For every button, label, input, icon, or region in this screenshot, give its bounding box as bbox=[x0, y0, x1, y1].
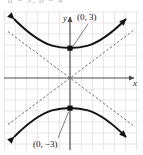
lower-vertex-label: (0, −3) bbox=[33, 140, 58, 149]
vertex-lower-marker bbox=[67, 106, 72, 111]
upper-vertex-label: (0, 3) bbox=[77, 13, 97, 22]
y-axis-label: y bbox=[63, 14, 67, 23]
coordinate-plane-svg bbox=[0, 0, 143, 155]
x-axis-label: x bbox=[133, 79, 137, 88]
vertex-upper-marker bbox=[67, 46, 72, 51]
leader-upper-vertex bbox=[73, 24, 89, 47]
label-leader-lines bbox=[58, 24, 88, 138]
hyperbola-graph-figure: a = 3, b = 4 bbox=[0, 0, 143, 155]
